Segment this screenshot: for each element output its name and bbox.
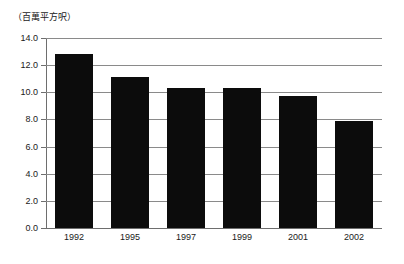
- x-axis-tick-label: 1997: [158, 232, 214, 243]
- bar-chart-figure: （百萬平方呎） 14.012.010.08.06.04.02.00.0 1992…: [0, 0, 404, 264]
- x-axis-tick-labels: 199219951997199920012002: [46, 232, 382, 248]
- x-axis-tick-label: 2002: [326, 232, 382, 243]
- gridline: [46, 147, 382, 148]
- y-axis-tick: [41, 147, 46, 148]
- bar: [111, 77, 149, 228]
- gridline: [46, 38, 382, 39]
- y-axis-tick-label: 10.0: [4, 88, 38, 97]
- y-axis-tick: [41, 65, 46, 66]
- gridline: [46, 201, 382, 202]
- gridline: [46, 119, 382, 120]
- gridline: [46, 174, 382, 175]
- plot-area: [46, 38, 382, 228]
- x-axis-tick-label: 1992: [46, 232, 102, 243]
- bar: [55, 54, 93, 228]
- y-axis-tick: [41, 201, 46, 202]
- bar: [335, 121, 373, 228]
- y-axis-tick-label: 0.0: [4, 224, 38, 233]
- gridline: [46, 228, 382, 229]
- x-axis-tick-label: 1999: [214, 232, 270, 243]
- y-axis-tick: [41, 119, 46, 120]
- y-axis-tick-label: 8.0: [4, 115, 38, 124]
- y-axis-tick-label: 4.0: [4, 170, 38, 179]
- y-axis-tick-label: 2.0: [4, 197, 38, 206]
- x-axis-tick-label: 1995: [102, 232, 158, 243]
- gridline: [46, 65, 382, 66]
- x-axis-tick-label: 2001: [270, 232, 326, 243]
- y-axis-tick: [41, 228, 46, 229]
- y-axis-tick-label: 14.0: [4, 34, 38, 43]
- gridline: [46, 92, 382, 93]
- bar: [279, 96, 317, 228]
- y-axis-tick-label: 6.0: [4, 143, 38, 152]
- y-axis-tick: [41, 92, 46, 93]
- bar: [223, 88, 261, 228]
- y-axis-tick: [41, 38, 46, 39]
- y-axis-tick: [41, 174, 46, 175]
- bar: [167, 88, 205, 228]
- y-axis-tick-labels: 14.012.010.08.06.04.02.00.0: [0, 0, 38, 264]
- y-axis-tick-label: 12.0: [4, 61, 38, 70]
